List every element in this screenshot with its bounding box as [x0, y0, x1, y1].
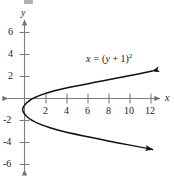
- equation-exponent: 2: [129, 52, 132, 59]
- x-tick-label-10: 10: [124, 106, 134, 116]
- equation-plus: +: [112, 53, 118, 64]
- x-tick-label-2: 2: [43, 106, 48, 116]
- y-tick-label-4: 4: [8, 49, 13, 59]
- y-tick-label-2: 2: [8, 71, 13, 81]
- equation-annotation: x=(y+1)2: [86, 53, 132, 64]
- equation-lhs: x: [86, 53, 90, 64]
- x-tick-label-8: 8: [106, 106, 111, 116]
- x-axis-label: x: [165, 93, 169, 103]
- y-tick-label-minus-2: -2: [3, 115, 11, 125]
- x-tick-label-4: 4: [64, 106, 69, 116]
- x-tick-label-6: 6: [85, 106, 90, 116]
- y-axis-label: y: [21, 8, 25, 18]
- y-tick-label-6: 6: [8, 27, 13, 37]
- equation-equals: =: [93, 53, 99, 64]
- equation-variable: y: [105, 53, 109, 64]
- parabola-figure: 2 4 6 8 10 12 6 4 2 -2 -4 -6 y x x=(y+1)…: [0, 0, 174, 177]
- x-tick-label-12: 12: [145, 106, 155, 116]
- y-tick-label-minus-4: -4: [3, 137, 11, 147]
- graph-canvas: [0, 0, 174, 177]
- y-tick-label-minus-6: -6: [3, 159, 11, 169]
